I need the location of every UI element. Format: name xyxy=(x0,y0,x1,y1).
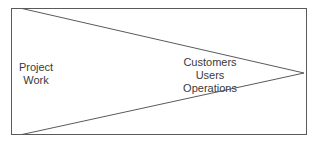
right-label-line-1: Customers xyxy=(160,56,260,69)
project-work-label: Project Work xyxy=(14,61,58,87)
diagram-canvas: Project Work Customers Users Operations xyxy=(0,0,320,145)
right-label-line-2: Users xyxy=(160,69,260,82)
left-label-line-2: Work xyxy=(14,74,58,87)
left-label-line-1: Project xyxy=(14,61,58,74)
right-label-line-3: Operations xyxy=(160,82,260,95)
stakeholders-label: Customers Users Operations xyxy=(160,56,260,95)
